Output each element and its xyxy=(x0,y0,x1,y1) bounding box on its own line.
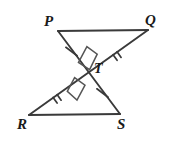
tick-rt-1 xyxy=(53,98,57,104)
vertex-label-q: Q xyxy=(145,13,156,28)
vertex-label-t: T xyxy=(94,62,103,76)
tick-tq-1 xyxy=(113,55,117,61)
segment-rq xyxy=(29,30,148,115)
tick-tq-2 xyxy=(117,52,121,58)
geometry-figure: P Q R S T xyxy=(0,0,170,146)
tick-rt-2 xyxy=(57,95,61,101)
vertex-label-s: S xyxy=(117,117,125,132)
right-angle-group xyxy=(67,47,97,100)
vertex-label-r: R xyxy=(17,117,27,132)
segment-group xyxy=(29,30,148,115)
segment-pq xyxy=(58,30,148,31)
segment-rs xyxy=(29,114,120,115)
vertex-label-p: P xyxy=(44,14,53,29)
